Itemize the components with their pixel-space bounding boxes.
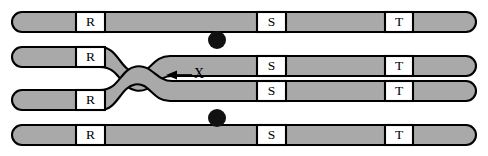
band-label-R: R (86, 92, 95, 107)
chromatid-4: R S T (12, 125, 476, 145)
chiasma-label: X (194, 66, 204, 81)
chromatid-1-band-S: S (257, 12, 286, 32)
band-label-S: S (268, 127, 276, 142)
band-label-R: R (86, 127, 95, 142)
band-label-T: T (395, 14, 404, 29)
chromosome-crossover-figure: R S T R S T (0, 0, 488, 156)
chromatid-2-band-T: T (385, 56, 413, 76)
band-label-S: S (268, 14, 276, 29)
figure-canvas: R S T R S T (0, 0, 488, 156)
chromatid-1-band-T: T (385, 12, 413, 32)
chromatid-4-band-T: T (385, 125, 413, 145)
chromatid-3-band-T: T (385, 81, 413, 101)
chromatid-3-band-S: S (257, 81, 286, 101)
chromatid-2-band-S: S (257, 56, 286, 76)
chromatid-3-band-R: R (76, 90, 105, 110)
chromatid-2-band-R: R (76, 47, 105, 67)
band-label-R: R (86, 49, 95, 64)
band-label-S: S (268, 83, 276, 98)
chromatid-4-band-R: R (76, 125, 105, 145)
chromatid-1-band-R: R (76, 12, 105, 32)
centromere-lower (208, 109, 226, 127)
band-label-S: S (268, 58, 276, 73)
chromatid-4-band-S: S (257, 125, 286, 145)
centromere-upper (208, 31, 226, 49)
chromatid-1: R S T (12, 12, 476, 32)
band-label-R: R (86, 14, 95, 29)
band-label-T: T (395, 127, 404, 142)
band-label-T: T (395, 58, 404, 73)
band-label-T: T (395, 83, 404, 98)
